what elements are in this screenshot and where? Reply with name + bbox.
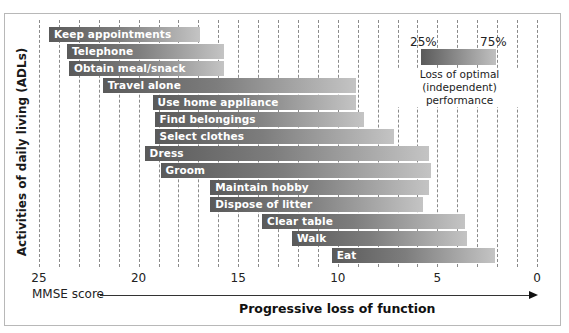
gridline [497,20,498,267]
adl-bar: Clear table [262,214,465,229]
adl-bar-label: Dress [150,146,184,161]
gridline [398,20,399,267]
adl-bar-label: Groom [166,163,206,178]
adl-bar: Eat [332,248,495,263]
x-axis-arrow-line [100,295,530,296]
legend-caption: Loss of optimal (independent) performanc… [392,68,527,107]
adl-bar-label: Select clothes [160,129,245,144]
x-tick-label: 20 [131,271,146,285]
adl-bar: Keep appointments [49,27,200,42]
x-tick-label: 0 [533,271,541,285]
legend-high-label: 75% [480,35,507,49]
adl-bar: Select clothes [155,129,394,144]
x-axis-title: Progressive loss of function [239,301,436,316]
x-tick-label: 5 [434,271,442,285]
adl-bar: Groom [161,163,432,178]
adl-bar-label: Use home appliance [158,95,279,110]
adl-bar: Use home appliance [153,95,356,110]
x-tick-label: 10 [330,271,345,285]
adl-bar: Maintain hobby [210,180,429,195]
gridline [39,20,40,267]
x-tick-label: 25 [31,271,46,285]
adl-bar-label: Obtain meal/snack [74,61,186,76]
adl-bar: Dispose of litter [210,197,423,212]
adl-bar: Dress [145,146,430,161]
y-axis-title: Activities of daily living (ADLs) [15,48,29,257]
adl-bar-label: Walk [297,231,326,246]
gridline [59,20,60,267]
legend-caption-line2: (independent) performance [392,81,527,107]
legend-caption-line1: Loss of optimal [392,68,527,81]
adl-bar-label: Eat [337,248,357,263]
adl-bar: Telephone [67,44,224,59]
x-axis-name: MMSE score [32,287,104,301]
gridline [537,20,538,267]
legend-gradient-bar [421,49,496,65]
adl-bar-label: Dispose of litter [215,197,312,212]
gridline [517,20,518,267]
adl-bar-label: Telephone [72,44,133,59]
legend-low-label: 25% [410,35,437,49]
adl-bar: Find belongings [155,112,364,127]
adl-bar-label: Find belongings [160,112,256,127]
adl-bar-label: Clear table [267,214,333,229]
adl-bar: Travel alone [103,78,356,93]
x-tick-label: 15 [231,271,246,285]
adl-bar-label: Maintain hobby [215,180,308,195]
gridline [417,20,418,267]
arrow-right-icon [529,291,538,299]
adl-bar: Obtain meal/snack [69,61,224,76]
adl-bar: Walk [292,231,467,246]
adl-bar-label: Travel alone [108,78,181,93]
adl-bar-label: Keep appointments [54,27,171,42]
